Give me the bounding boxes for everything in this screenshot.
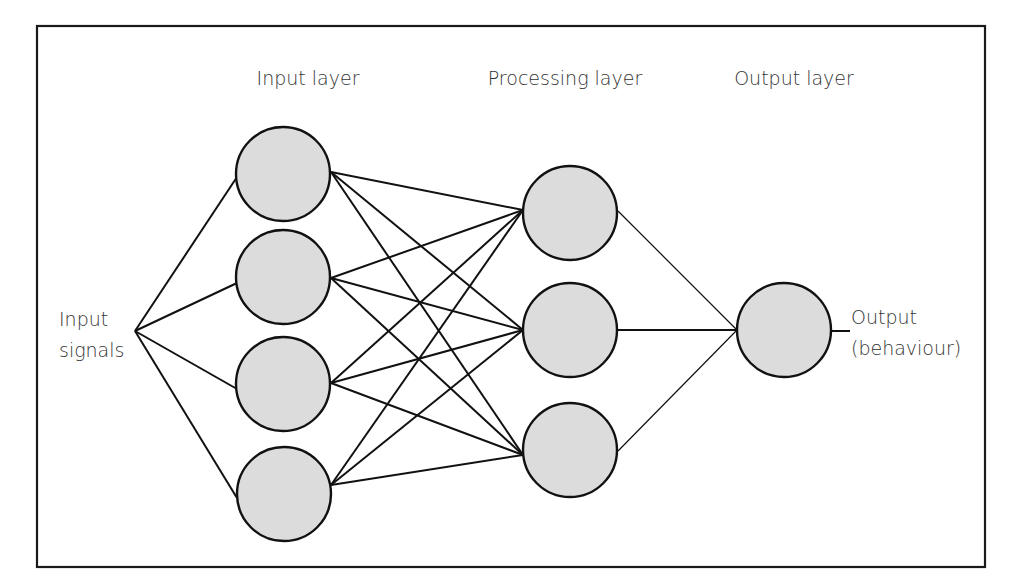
input-node-1 xyxy=(236,127,330,221)
diagram-frame xyxy=(37,26,985,567)
input-signal-edges xyxy=(135,177,237,498)
output-label-line1: Output xyxy=(851,306,917,328)
neural-network-diagram: Input layer Processing layer Output laye… xyxy=(0,0,1012,588)
processing-node-2 xyxy=(523,283,617,377)
processing-layer-title: Processing layer xyxy=(488,67,643,89)
input-layer-title: Input layer xyxy=(257,67,360,89)
input-node-2 xyxy=(236,230,330,324)
input-node-3 xyxy=(236,337,330,431)
processing-to-output-edges xyxy=(618,211,737,451)
input-signals-label-line1: Input xyxy=(59,308,108,330)
input-to-processing-edges xyxy=(331,172,523,485)
output-node xyxy=(737,283,831,377)
input-signals-label-line2: signals xyxy=(59,339,124,361)
processing-node-3 xyxy=(523,403,617,497)
processing-node-1 xyxy=(523,166,617,260)
output-label-line2: (behaviour) xyxy=(851,337,961,359)
output-layer-title: Output layer xyxy=(734,67,854,89)
input-node-4 xyxy=(237,447,331,541)
